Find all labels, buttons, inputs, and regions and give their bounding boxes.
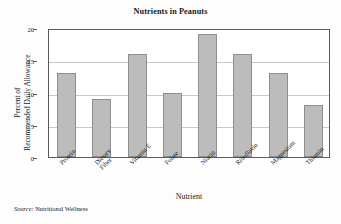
chart-figure: Nutrients in Peanuts 05101520 Percent of… xyxy=(0,0,341,224)
plot-area xyxy=(48,29,330,158)
y-tick-mark xyxy=(33,61,37,62)
y-tick-mark xyxy=(33,94,37,95)
y-axis-title-line2: Recommended Daily Allowance xyxy=(23,33,33,173)
bar xyxy=(233,54,252,157)
source-note: Source: Nutritional Wellness xyxy=(14,205,88,212)
y-tick-mark xyxy=(33,29,37,30)
bars-layer xyxy=(49,30,329,157)
chart-title: Nutrients in Peanuts xyxy=(0,7,341,16)
y-tick-mark xyxy=(33,158,37,159)
source-text: Nutritional Wellness xyxy=(34,205,88,212)
bar xyxy=(128,54,147,157)
y-axis-title: Percent of Recommended Daily Allowance xyxy=(13,33,32,173)
bar xyxy=(198,34,217,157)
source-label: Source: xyxy=(14,205,34,212)
y-tick-mark xyxy=(33,126,37,127)
y-axis-title-line1: Percent of xyxy=(13,33,23,173)
x-axis-title: Nutrient xyxy=(48,192,330,201)
bar xyxy=(57,73,76,157)
bar xyxy=(163,93,182,158)
